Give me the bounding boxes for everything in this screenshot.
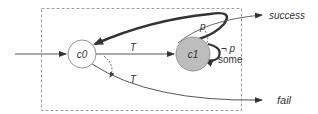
state-c1-label: c1: [188, 49, 199, 60]
edge-c0-fail: [92, 64, 262, 100]
self-loop-mode: some: [218, 54, 243, 65]
edge-label-c1-success: p: [199, 21, 206, 32]
priority-arc-c0: [104, 56, 112, 77]
edge-label-c0-c1: T: [130, 42, 137, 53]
self-loop-guard: ¬ p: [221, 43, 236, 54]
outcome-success: success: [269, 10, 305, 21]
automaton-diagram: T T p ¬ p some c0 c1 success fail: [0, 0, 318, 114]
edge-label-c0-fail: T: [130, 74, 137, 85]
state-c0-label: c0: [77, 49, 88, 60]
edge-c1-c0-return: [95, 13, 227, 44]
outcome-fail: fail: [277, 94, 292, 106]
